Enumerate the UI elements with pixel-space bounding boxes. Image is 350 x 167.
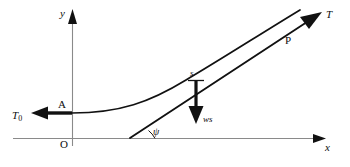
y-axis-label: y	[60, 8, 65, 19]
arrow-left-icon	[31, 107, 48, 120]
tension-label-t0: T0	[12, 110, 22, 123]
arrow-up-icon	[68, 9, 77, 24]
weight-label-ws: ws	[203, 115, 213, 124]
origin-label: O	[60, 139, 68, 150]
catenary-curve	[72, 10, 300, 113]
tangent-line	[130, 20, 310, 138]
arrow-up-right-icon	[300, 12, 322, 29]
catenary-force-diagram: y x O A P T T0 ws s ψ	[0, 0, 350, 167]
tension-label-t: T	[326, 9, 332, 20]
point-label-a: A	[58, 99, 66, 110]
arrow-down-icon	[189, 106, 204, 124]
angle-label-psi: ψ	[153, 127, 159, 137]
tension-t0-subscript: 0	[18, 114, 22, 123]
diagram-canvas	[0, 0, 350, 167]
point-label-p: P	[285, 35, 291, 46]
x-axis-label: x	[325, 142, 330, 153]
arc-length-label-s: s	[190, 69, 194, 78]
